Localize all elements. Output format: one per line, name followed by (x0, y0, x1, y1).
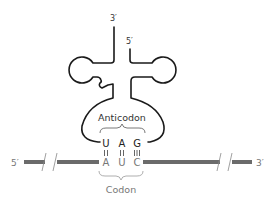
trna-3-prime-strand (69, 27, 114, 142)
anticodon-label: Anticodon (98, 112, 146, 123)
hydrogen-bonds (105, 150, 140, 156)
codon-label: Codon (106, 184, 136, 195)
anticodon-brace (100, 124, 145, 133)
codon-brace (99, 171, 143, 180)
mrna-3-prime-label: 3′ (256, 158, 264, 168)
anticodon-base-2: A (119, 138, 126, 149)
trna-5-prime-label: 5′ (126, 37, 133, 46)
anticodon-base-3: G (133, 138, 141, 149)
anticodon-base-1: U (102, 138, 109, 149)
mrna-5-prime-label: 5′ (11, 158, 19, 168)
codon-base-2: U (118, 157, 125, 168)
codon-base-1: A (103, 157, 110, 168)
trna-codon-diagram: 3′ 5′ Anticodon U A G 5′ 3′ A U C Codon (0, 0, 277, 202)
codon-base-3: C (134, 157, 141, 168)
trna-3-prime-label: 3′ (110, 14, 117, 23)
